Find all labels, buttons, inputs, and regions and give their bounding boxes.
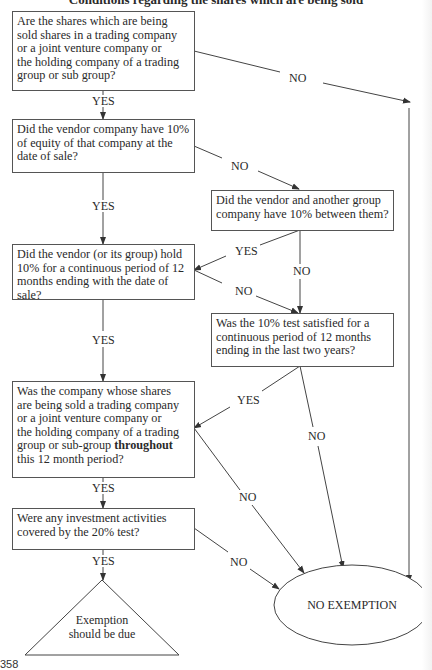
question-10-percent-two-years: Was the 10% test satisfied for a continu… [211,313,394,367]
edge-label-q1-yes: YES [91,95,116,107]
edge-label-q3b-no: NO [307,430,326,442]
q4-text-bold: throughout [114,438,173,452]
edge-label-q3-yes: YES [91,334,116,346]
edge-label-q5-yes: YES [91,555,116,567]
edge-label-q2-yes: YES [91,200,116,212]
chart-title: Conditions regarding the shares which ar… [0,0,432,7]
edge-label-q3-no: NO [234,285,253,297]
page-edge-shadow [422,0,432,670]
edge-label-q5-no: NO [229,556,248,568]
page-number: 358 [0,658,18,670]
q4-text-after: this 12 month period? [17,452,124,466]
question-vendor-10-percent: Did the vendor company have 10% of equit… [12,119,195,173]
question-trading-company: Are the shares which are being sold shar… [12,11,195,91]
flowchart-canvas: Conditions regarding the shares which ar… [0,0,432,670]
edge-label-q1-no: NO [288,72,307,84]
question-vendor-and-group: Did the vendor and another group company… [211,190,394,231]
question-investment-activities: Were any investment activities covered b… [12,508,195,550]
edge-label-q2b-no: NO [292,265,311,277]
question-continuous-period: Did the vendor (or its group) hold 10% f… [12,244,195,300]
edge-label-q4-no: NO [238,491,257,503]
edge-label-q4-yes: YES [91,482,116,494]
exemption-due-label: Exemption should be due [52,613,152,641]
edge-label-q3b-yes: YES [236,394,261,406]
question-trading-throughout: Was the company whose shares are being s… [12,381,195,478]
no-exemption-label: NO EXEMPTION [274,598,430,612]
edge-label-q2-no: NO [230,160,249,172]
edge-label-q2b-yes: YES [234,245,259,257]
